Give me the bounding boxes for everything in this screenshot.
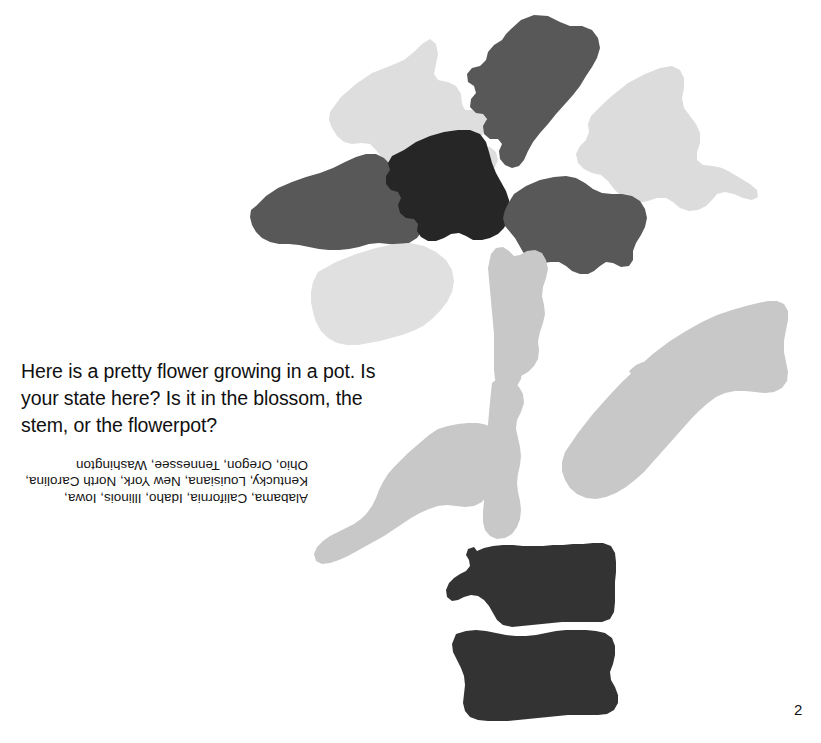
page-number: 2	[794, 701, 802, 718]
state-shape-idaho-leaf	[314, 423, 494, 564]
state-shape-kentucky	[467, 15, 600, 168]
state-shape-washington	[446, 543, 616, 627]
flowerpot-group	[446, 543, 618, 721]
state-shape-illinois-lower	[483, 378, 524, 539]
state-shape-california-leaf	[562, 301, 788, 499]
state-shape-new-york	[576, 66, 758, 211]
worksheet-page: Here is a pretty flower growing in a pot…	[0, 0, 821, 743]
prompt-text: Here is a pretty flower growing in a pot…	[21, 358, 381, 439]
answer-key-text: Alabama, California, Idaho, Illinois, Io…	[18, 456, 308, 506]
state-shape-oregon	[452, 630, 618, 721]
state-shape-tennessee	[311, 243, 454, 345]
state-shape-alabama-sliver	[494, 288, 522, 390]
